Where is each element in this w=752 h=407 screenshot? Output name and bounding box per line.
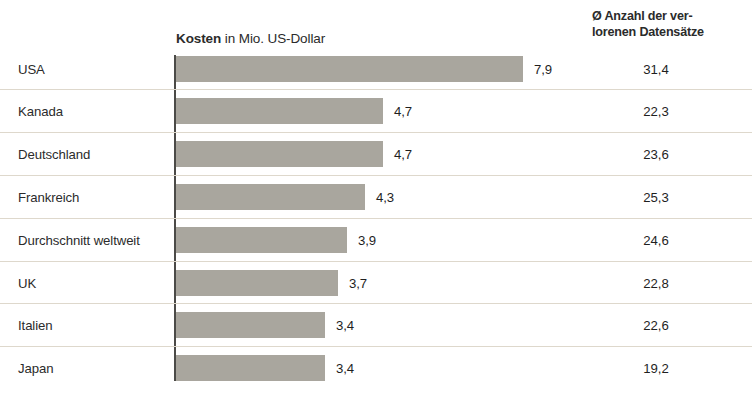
bar[interactable] (176, 270, 338, 296)
row-label-kanada: Kanada (18, 104, 63, 119)
bar-value-label: 3,4 (336, 361, 354, 376)
column-header-cost-bold: Kosten (176, 31, 221, 46)
bar[interactable] (176, 184, 365, 210)
bar[interactable] (176, 141, 383, 167)
records-value: 25,3 (592, 189, 720, 204)
chart-row[interactable]: USA7,931,4 (0, 47, 752, 90)
column-header-records-line2: lorenen Datensätze (592, 24, 752, 40)
chart-row[interactable]: Frankreich4,325,3 (0, 175, 752, 218)
chart-container: Kosten in Mio. US-Dollar Ø Anzahl der ve… (0, 0, 752, 407)
bar-value-label: 4,3 (376, 189, 394, 204)
bar-value-label: 7,9 (534, 61, 552, 76)
chart-row[interactable]: Deutschland4,723,6 (0, 133, 752, 176)
chart-row[interactable]: Durchschnitt weltweit3,924,6 (0, 218, 752, 261)
row-label-italien: Italien (18, 318, 53, 333)
column-header-cost-rest: in Mio. US-Dollar (221, 31, 325, 46)
bar-value-label: 4,7 (394, 104, 412, 119)
column-header-cost: Kosten in Mio. US-Dollar (176, 31, 325, 46)
column-header-records-line1: Ø Anzahl der ver- (592, 8, 752, 24)
records-value: 22,3 (592, 104, 720, 119)
chart-row[interactable]: Italien3,422,6 (0, 304, 752, 347)
chart-row[interactable]: UK3,722,8 (0, 261, 752, 304)
column-header-records: Ø Anzahl der ver- lorenen Datensätze (592, 8, 752, 40)
records-value: 23,6 (592, 147, 720, 162)
bar[interactable] (176, 355, 325, 381)
records-value: 22,8 (592, 275, 720, 290)
chart-row[interactable]: Kanada4,722,3 (0, 90, 752, 133)
row-label-uk: UK (18, 275, 36, 290)
row-label-deutschland: Deutschland (18, 147, 90, 162)
records-value: 22,6 (592, 318, 720, 333)
bar[interactable] (176, 56, 523, 82)
row-label-durchschnitt-weltweit: Durchschnitt weltweit (18, 232, 140, 247)
bar-value-label: 3,9 (358, 232, 376, 247)
bar-value-label: 4,7 (394, 147, 412, 162)
bar[interactable] (176, 312, 325, 338)
bar-value-label: 3,4 (336, 318, 354, 333)
chart-row[interactable]: Japan3,419,2 (0, 347, 752, 390)
records-value: 31,4 (592, 61, 720, 76)
row-label-frankreich: Frankreich (18, 189, 79, 204)
bar-value-label: 3,7 (349, 275, 367, 290)
row-label-usa: USA (18, 61, 45, 76)
row-label-japan: Japan (18, 361, 53, 376)
bar[interactable] (176, 227, 347, 253)
records-value: 24,6 (592, 232, 720, 247)
bar[interactable] (176, 98, 383, 124)
records-value: 19,2 (592, 361, 720, 376)
